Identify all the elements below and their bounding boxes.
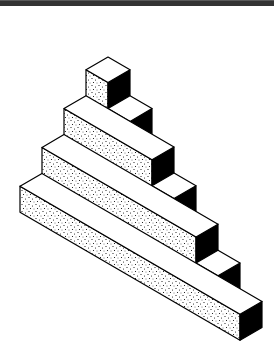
isometric-staircase-drawing xyxy=(0,0,274,363)
block-group xyxy=(20,57,262,340)
